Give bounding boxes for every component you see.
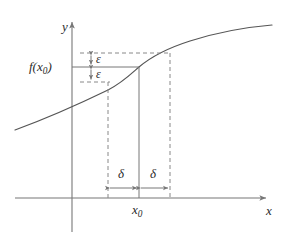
fx0-label-close: ) bbox=[47, 59, 51, 74]
x0-label: x0 bbox=[132, 203, 142, 219]
y-axis-label: y bbox=[62, 20, 68, 33]
delta-right-label: δ bbox=[150, 167, 156, 180]
delta-left-label: δ bbox=[118, 167, 124, 180]
function-curve bbox=[15, 25, 272, 130]
epsilon-upper-label: ε bbox=[96, 53, 101, 65]
axis-group bbox=[15, 22, 266, 232]
fx0-label-head: f(x bbox=[29, 59, 43, 74]
fx0-label: f(x0) bbox=[29, 60, 52, 76]
dashed-construction-lines bbox=[80, 53, 170, 198]
x-axis-label: x bbox=[266, 204, 272, 217]
x0-label-subscript: 0 bbox=[138, 209, 143, 219]
epsilon-delta-continuity-figure: y x f(x0) ε ε δ δ x0 bbox=[0, 0, 283, 245]
solid-guide-lines bbox=[72, 67, 139, 198]
epsilon-lower-label: ε bbox=[96, 68, 101, 80]
